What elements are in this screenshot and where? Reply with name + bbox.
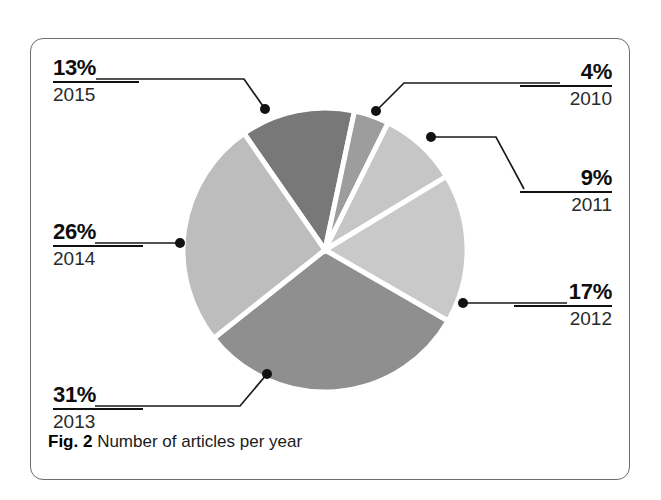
callout-percent-2013: 31% — [53, 383, 143, 406]
callout-label-2014[interactable]: 26% 2014 — [53, 220, 143, 270]
callout-underline-2010 — [520, 85, 612, 87]
callout-percent-2015: 13% — [53, 56, 139, 79]
callout-label-2015[interactable]: 13% 2015 — [53, 56, 139, 106]
callout-dot-2010 — [371, 106, 381, 116]
callout-percent-2011: 9% — [520, 166, 612, 189]
callout-dot-2015 — [260, 104, 270, 114]
callout-year-2010: 2010 — [520, 88, 612, 110]
callout-underline-2012 — [514, 305, 612, 307]
callout-percent-2010: 4% — [520, 60, 612, 83]
callout-label-2013[interactable]: 31% 2013 — [53, 383, 143, 433]
figure-caption-label: Fig. 2 — [48, 432, 92, 451]
figure-caption-text: Number of articles per year — [97, 432, 302, 451]
callout-year-2013: 2013 — [53, 411, 143, 433]
callout-dot-2011 — [426, 132, 436, 142]
callout-label-2011[interactable]: 9% 2011 — [520, 166, 612, 216]
callout-dot-2014 — [175, 238, 185, 248]
callout-year-2014: 2014 — [53, 248, 143, 270]
pie-slices — [183, 108, 467, 392]
callout-underline-2014 — [53, 245, 143, 247]
figure-caption: Fig. 2 Number of articles per year — [48, 432, 302, 452]
callout-underline-2013 — [53, 408, 143, 410]
callout-dot-2013 — [262, 369, 272, 379]
callout-underline-2015 — [53, 81, 139, 83]
callout-underline-2011 — [520, 191, 612, 193]
callout-year-2011: 2011 — [520, 194, 612, 216]
callout-label-2012[interactable]: 17% 2012 — [514, 280, 612, 330]
callout-percent-2012: 17% — [514, 280, 612, 303]
callout-label-2010[interactable]: 4% 2010 — [520, 60, 612, 110]
callout-year-2012: 2012 — [514, 308, 612, 330]
callout-year-2015: 2015 — [53, 84, 139, 106]
callout-dot-2012 — [458, 298, 468, 308]
callout-percent-2014: 26% — [53, 220, 143, 243]
